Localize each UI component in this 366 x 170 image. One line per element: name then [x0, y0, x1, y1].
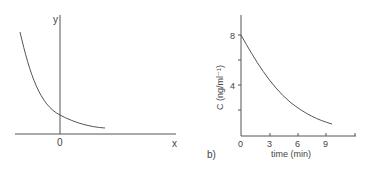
y-axis-label: y [53, 14, 58, 25]
y-tick-label-8: 8 [230, 31, 235, 41]
figure: y x 0 8 4 0 3 6 9 time (min) C (ng/ml⁻¹)… [0, 0, 366, 170]
concentration-curve [241, 35, 332, 124]
decay-curve [20, 32, 105, 128]
x-axis-label: x [172, 138, 177, 149]
x-tick-label-3: 3 [267, 139, 272, 149]
x-tick-label-9: 9 [323, 139, 328, 149]
x-axis-title: time (min) [271, 149, 311, 159]
panel-label: b) [207, 149, 216, 160]
chart-a: y x 0 [15, 14, 177, 149]
chart-b: 8 4 0 3 6 9 time (min) C (ng/ml⁻¹) b) [207, 15, 356, 160]
x-tick-label-6: 6 [295, 139, 300, 149]
y-tick-label-4: 4 [230, 81, 235, 91]
y-axis-title: C (ng/ml⁻¹) [215, 65, 225, 110]
x-tick-label-0: 0 [238, 139, 243, 149]
origin-label: 0 [57, 137, 63, 148]
